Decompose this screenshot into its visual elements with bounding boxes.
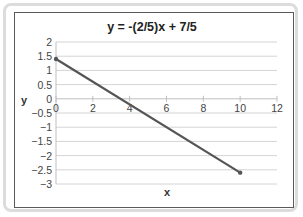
y-tick-label: −3 (40, 178, 52, 190)
y-tick-label: −1 (40, 121, 52, 133)
x-axis-label: x (164, 186, 171, 198)
x-tick-label: 2 (90, 102, 96, 114)
data-point-marker (54, 57, 58, 61)
x-tick-label: 8 (200, 102, 206, 114)
y-tick-label: 1 (46, 64, 52, 76)
y-tick-label: 1.5 (37, 50, 52, 62)
y-axis-label: y (21, 94, 28, 106)
x-tick-label: 0 (53, 102, 59, 114)
y-tick-label: −2.5 (31, 164, 52, 176)
data-series (54, 57, 243, 175)
y-tick-label: 2 (46, 36, 52, 48)
y-tick-label: 0 (46, 93, 52, 105)
x-tick-label: 6 (164, 102, 170, 114)
y-tick-label: −0.5 (31, 107, 52, 119)
y-tick-label: −1.5 (31, 135, 52, 147)
chart-title: y = -(2/5)x + 7/5 (107, 20, 197, 34)
y-axis-ticks: 21.510.50−0.5−1−1.5−2−2.5−3 (31, 36, 52, 190)
y-tick-label: −2 (40, 150, 52, 162)
y-tick-label: 0.5 (37, 79, 52, 91)
x-tick-label: 12 (271, 102, 283, 114)
data-point-marker (238, 170, 242, 174)
x-tick-label: 10 (234, 102, 246, 114)
line-chart: y = -(2/5)x + 7/5 21.510.50−0.5−1−1.5−2−… (0, 0, 303, 217)
